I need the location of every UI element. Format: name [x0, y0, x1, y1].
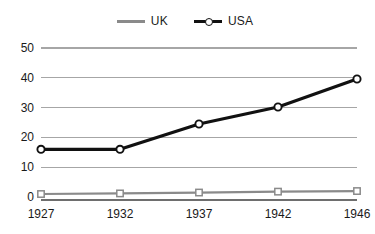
y-tick-label-10: 10 [8, 161, 34, 173]
y-tick-label-50: 50 [8, 42, 34, 54]
x-tick-label-1942: 1942 [254, 208, 302, 220]
data-point-usa-1932[interactable] [116, 146, 123, 153]
x-tick-label-1932: 1932 [96, 208, 144, 220]
x-tick-label-1927: 1927 [17, 208, 65, 220]
y-tick-label-30: 30 [8, 102, 34, 114]
data-point-usa-1927[interactable] [37, 146, 44, 153]
data-point-uk-1946[interactable] [354, 188, 360, 194]
data-point-uk-1937[interactable] [196, 189, 202, 195]
series-line-usa [41, 79, 357, 149]
y-tick-label-20: 20 [8, 131, 34, 143]
data-point-uk-1932[interactable] [117, 190, 123, 196]
data-point-usa-1946[interactable] [353, 75, 360, 82]
y-tick-label-40: 40 [8, 72, 34, 84]
data-point-uk-1942[interactable] [275, 188, 281, 194]
data-point-usa-1942[interactable] [274, 103, 281, 110]
x-tick-label-1937: 1937 [175, 208, 223, 220]
data-point-uk-1927[interactable] [38, 191, 44, 197]
y-tick-label-0: 0 [8, 191, 34, 203]
data-point-usa-1937[interactable] [195, 120, 202, 127]
x-tick-label-1946: 1946 [333, 208, 375, 220]
